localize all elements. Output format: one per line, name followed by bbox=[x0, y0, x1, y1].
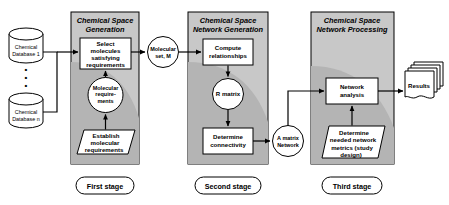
network-metrics-line1: Determine bbox=[339, 129, 369, 136]
stage-panel-third: Chemical Space Network Processing Networ… bbox=[311, 12, 394, 164]
establish-requirements-line1: Establish bbox=[92, 132, 119, 139]
network-analysis-line2: analysis bbox=[340, 91, 365, 98]
determine-connectivity-line2: connectivity bbox=[210, 141, 246, 148]
molecular-requirements-line3: ments bbox=[97, 98, 113, 104]
second-stage-label: Second stage bbox=[205, 182, 252, 191]
compute-relationships-line2: relationships bbox=[209, 52, 248, 59]
stage2-title-line1: Chemical Space bbox=[200, 16, 257, 25]
results-label: Results bbox=[408, 82, 431, 89]
chemical-database-1[interactable]: Chemical Database 1 bbox=[9, 28, 43, 63]
network-metrics-line4: design) bbox=[340, 151, 362, 158]
dbn-label-line1: Chemical bbox=[15, 109, 37, 115]
connector-molecular-set[interactable]: Molecular set, M bbox=[148, 37, 179, 68]
db1-label-line2: Database 1 bbox=[12, 51, 40, 57]
db1-label-line1: Chemical bbox=[15, 44, 37, 50]
compute-relationships-line1: Compute bbox=[215, 44, 242, 51]
database-n-cylinder-top-icon bbox=[9, 93, 43, 105]
stage-caption-first: First stage bbox=[76, 177, 134, 194]
molecular-set-line2: set, M bbox=[155, 53, 171, 59]
first-stage-label: First stage bbox=[87, 182, 123, 191]
molecular-requirements-line1: Molecular bbox=[93, 85, 120, 91]
select-molecules-line3: satisfying bbox=[91, 54, 120, 61]
network-metrics-line3: metrics (study bbox=[331, 144, 373, 151]
third-stage-label: Third stage bbox=[333, 182, 372, 191]
database-cylinder-top-icon bbox=[9, 28, 43, 40]
stage1-title-line1: Chemical Space bbox=[77, 16, 134, 25]
r-matrix-label: R matrix bbox=[216, 90, 241, 97]
establish-requirements-line3: requirements bbox=[85, 146, 124, 153]
database-ellipsis: • • • bbox=[25, 65, 28, 90]
stage-caption-second: Second stage bbox=[195, 177, 261, 194]
stage1-title-line2: Generation bbox=[85, 25, 124, 34]
a-matrix-line1: A matrix bbox=[277, 135, 300, 141]
stage3-title-line2: Network Processing bbox=[316, 25, 388, 34]
select-molecules-line4: requirements bbox=[86, 61, 125, 68]
ellipsis-dot-3: • bbox=[25, 81, 28, 90]
stage3-title-line1: Chemical Space bbox=[324, 16, 381, 25]
establish-requirements-line2: molecular bbox=[91, 139, 120, 146]
connector-a-matrix-network[interactable]: A matrix Network bbox=[273, 126, 304, 157]
determine-connectivity-line1: Determine bbox=[213, 133, 243, 140]
stage2-title-line2: Network Generation bbox=[193, 25, 264, 34]
select-molecules-line1: Select bbox=[97, 40, 115, 47]
output-results[interactable]: Results bbox=[405, 62, 443, 98]
workflow-diagram: Chemical Space Generation Select molecul… bbox=[0, 0, 449, 205]
database-join-line bbox=[43, 52, 57, 112]
a-matrix-line2: Network bbox=[277, 142, 300, 148]
diagram-canvas: Chemical Space Generation Select molecul… bbox=[0, 0, 449, 205]
select-molecules-line2: molecules bbox=[91, 47, 121, 54]
stage-panel-first: Chemical Space Generation Select molecul… bbox=[71, 12, 139, 164]
network-metrics-line2: needed network bbox=[330, 136, 377, 143]
network-analysis-line1: Network bbox=[340, 83, 365, 90]
molecular-set-line1: Molecular bbox=[150, 46, 177, 52]
molecular-requirements-line2: require- bbox=[95, 91, 116, 97]
chemical-database-n[interactable]: Chemical Database n bbox=[9, 93, 43, 128]
dbn-label-line2: Database n bbox=[12, 116, 40, 122]
stage-caption-third: Third stage bbox=[322, 177, 382, 194]
